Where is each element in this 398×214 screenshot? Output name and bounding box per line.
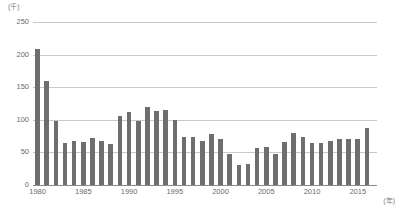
bar: [227, 154, 232, 185]
bar: [163, 110, 168, 185]
x-tick-label-1980: 1980: [29, 188, 46, 196]
bar: [54, 121, 59, 185]
bar: [273, 154, 278, 185]
bar-series: [33, 22, 377, 185]
y-tick-label-50: 50: [21, 149, 29, 157]
y-tick-label-150: 150: [16, 83, 29, 91]
y-tick-label-100: 100: [16, 116, 29, 124]
bar: [173, 120, 178, 185]
bar: [282, 142, 287, 185]
bar: [63, 143, 68, 185]
bar: [218, 139, 223, 185]
bar: [346, 139, 351, 185]
x-tick-label-2010: 2010: [304, 188, 321, 196]
bar: [209, 134, 214, 185]
x-axis-ticks: 19801985199019952000200520102015: [33, 185, 377, 199]
bar: [328, 141, 333, 185]
y-axis-unit-label: (千): [8, 1, 20, 11]
x-tick-label-1995: 1995: [166, 188, 183, 196]
bar: [255, 148, 260, 185]
x-tick-label-1985: 1985: [75, 188, 92, 196]
bar: [310, 143, 315, 185]
x-tick-label-2000: 2000: [212, 188, 229, 196]
bar: [154, 111, 159, 185]
bar: [182, 137, 187, 185]
bar: [200, 141, 205, 185]
bar: [264, 147, 269, 185]
bar: [108, 144, 113, 185]
bar: [246, 164, 251, 185]
x-tick-label-2015: 2015: [349, 188, 366, 196]
bar: [145, 107, 150, 185]
bar: [118, 116, 123, 185]
bar: [72, 141, 77, 185]
bar: [136, 121, 141, 185]
bar: [90, 138, 95, 185]
bar: [127, 112, 132, 185]
y-tick-label-200: 200: [16, 51, 29, 59]
y-tick-label-250: 250: [16, 18, 29, 26]
bar: [191, 137, 196, 185]
bar: [337, 139, 342, 185]
bar: [237, 165, 242, 185]
bar: [99, 141, 104, 185]
bar: [35, 49, 40, 185]
x-tick-label-2005: 2005: [258, 188, 275, 196]
x-axis-unit-label: (年): [383, 195, 395, 205]
bar: [301, 137, 306, 185]
bar-chart: (千) (年) 050100150200250 1980198519901995…: [0, 0, 398, 214]
bar: [44, 81, 49, 185]
bar: [365, 128, 370, 185]
bar: [291, 133, 296, 185]
bar: [81, 142, 86, 185]
plot-area: 050100150200250 198019851990199520002005…: [33, 22, 377, 185]
bar: [319, 143, 324, 185]
bar: [355, 139, 360, 185]
x-tick-label-1990: 1990: [121, 188, 138, 196]
